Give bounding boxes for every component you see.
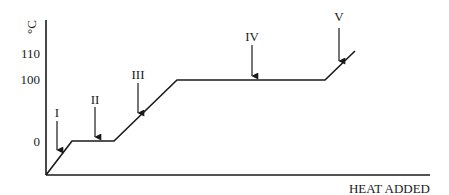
annotation-label-III: III bbox=[132, 67, 145, 82]
annotation-III: III bbox=[132, 67, 145, 113]
annotation-IV: IV bbox=[245, 29, 259, 76]
y-tick-100: 100 bbox=[21, 72, 41, 87]
annotation-V: V bbox=[334, 9, 344, 61]
heating-curve-line bbox=[46, 51, 355, 175]
y-tick-0: 0 bbox=[34, 134, 41, 149]
annotation-label-V: V bbox=[334, 9, 344, 24]
y-axis-unit-label: °C bbox=[24, 20, 39, 34]
y-tick-110: 110 bbox=[21, 46, 40, 61]
annotation-label-II: II bbox=[91, 92, 100, 107]
heating-curve-diagram: °C 110 100 0 HEAT ADDED I II III IV V bbox=[0, 0, 449, 195]
annotation-label-IV: IV bbox=[245, 29, 259, 44]
annotation-label-I: I bbox=[55, 105, 59, 120]
x-axis-label: HEAT ADDED bbox=[349, 181, 430, 195]
annotation-II: II bbox=[91, 92, 100, 137]
annotation-I: I bbox=[55, 105, 59, 150]
